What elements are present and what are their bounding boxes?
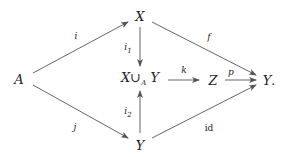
label-j: j	[74, 123, 77, 132]
arrow-a-to-x	[33, 22, 128, 73]
commutative-diagram: A X X∪A Y Y Z Y. i j i1 i2 k f p id	[0, 0, 291, 157]
y-right-letter: Y	[263, 73, 272, 88]
cup-symbol: ∪	[130, 70, 141, 85]
y-right-period: .	[271, 73, 275, 88]
node-a: A	[14, 73, 23, 86]
node-y-right: Y.	[263, 74, 276, 87]
label-k: k	[181, 66, 186, 75]
label-f: f	[207, 33, 210, 42]
arrow-x-to-yright	[152, 22, 256, 75]
label-i2: i2	[124, 107, 131, 119]
label-i2-sub: 2	[127, 111, 131, 119]
label-p: p	[228, 68, 234, 77]
label-id: id	[205, 124, 214, 133]
pushout-subscript: A	[141, 79, 146, 87]
node-z: Z	[208, 74, 217, 87]
node-y-bottom: Y	[136, 139, 145, 152]
pushout-right: Y	[150, 70, 159, 85]
label-i1-sub: 1	[127, 47, 131, 55]
label-i1: i1	[124, 43, 131, 55]
node-x: X	[135, 10, 144, 23]
pushout-left: X	[121, 70, 130, 85]
arrow-a-to-y	[33, 85, 128, 138]
node-pushout: X∪A Y	[121, 71, 159, 87]
label-i: i	[75, 32, 78, 41]
